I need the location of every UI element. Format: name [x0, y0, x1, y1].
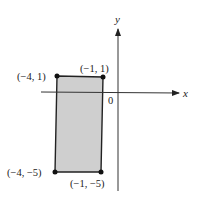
- diagram-canvas: x y 0 (−4, 1) (−1, 1) (−1, −5) (−4, −5): [0, 0, 202, 199]
- y-axis-label: y: [114, 13, 120, 25]
- vertex-label-top-right: (−1, 1): [80, 63, 109, 75]
- origin-label: 0: [108, 95, 113, 106]
- vertex-label-bottom-left: (−4, −5): [7, 167, 42, 179]
- vertex-dot: [101, 75, 106, 80]
- vertex-label-bottom-right: (−1, −5): [70, 178, 105, 190]
- vertex-dot: [99, 170, 104, 175]
- x-axis-label: x: [182, 87, 188, 99]
- vertex-label-top-left: (−4, 1): [17, 71, 46, 83]
- coordinate-diagram: x y 0 (−4, 1) (−1, 1) (−1, −5) (−4, −5): [0, 0, 202, 199]
- vertex-dot: [53, 170, 58, 175]
- shaded-rectangle: [55, 76, 103, 172]
- vertex-dot: [55, 74, 60, 79]
